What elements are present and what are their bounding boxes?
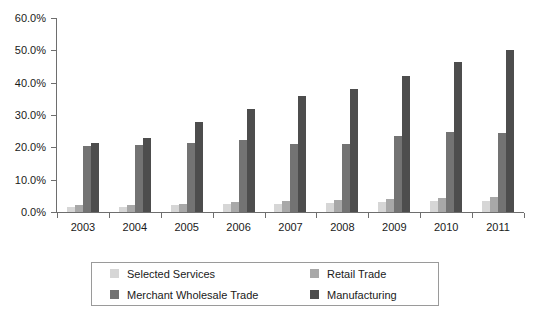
bar (506, 50, 514, 212)
bar (378, 202, 386, 212)
x-tick-label: 2008 (330, 221, 354, 234)
bar (274, 204, 282, 212)
bar (326, 203, 334, 212)
bar (67, 207, 75, 212)
bar (386, 199, 394, 212)
bar-group (265, 18, 317, 212)
x-tick-label: 2004 (123, 221, 147, 234)
y-tick-mark (51, 83, 56, 84)
x-tick-mark (109, 213, 110, 218)
bar-group (109, 18, 161, 212)
legend-item: Manufacturing (292, 289, 440, 301)
y-tick-label: 10.0% (15, 174, 46, 185)
bars-container (57, 18, 524, 212)
bar-chart: 0.0%10.0%20.0%30.0%40.0%50.0%60.0% 20032… (0, 0, 533, 314)
x-tick-mark (316, 213, 317, 218)
x-tick-label: 2009 (382, 221, 406, 234)
x-axis-labels: 200320042005200620072008200920102011 (57, 221, 524, 241)
bar (350, 89, 358, 212)
bar (402, 76, 410, 212)
legend-item: Selected Services (92, 268, 292, 280)
legend-swatch-icon (310, 290, 319, 299)
y-tick-mark (51, 180, 56, 181)
bar (239, 140, 247, 212)
legend-label: Manufacturing (327, 289, 397, 301)
bar (171, 205, 179, 212)
x-tick-mark (213, 213, 214, 218)
bar (342, 144, 350, 212)
y-tick-label: 40.0% (15, 77, 46, 88)
bar (247, 109, 255, 212)
bar-group (213, 18, 265, 212)
bar (490, 197, 498, 212)
x-tick-label: 2007 (278, 221, 302, 234)
bar (143, 138, 151, 212)
y-tick-mark (51, 212, 56, 213)
x-tick-label: 2003 (71, 221, 95, 234)
bar (282, 201, 290, 212)
y-tick-label: 20.0% (15, 142, 46, 153)
bar (290, 144, 298, 212)
x-tick-mark (472, 213, 473, 218)
x-tick-label: 2010 (434, 221, 458, 234)
bar-group (420, 18, 472, 212)
legend-swatch-icon (310, 269, 319, 278)
y-tick-label: 0.0% (21, 207, 46, 218)
bar (195, 122, 203, 212)
y-tick-mark (51, 18, 56, 19)
bar (498, 133, 506, 212)
bar (119, 207, 127, 212)
bar (394, 136, 402, 212)
y-tick-label: 30.0% (15, 110, 46, 121)
bar (179, 204, 187, 212)
plot-area: 0.0%10.0%20.0%30.0%40.0%50.0%60.0% 20032… (0, 0, 533, 250)
y-tick-label: 50.0% (15, 45, 46, 56)
bar (482, 201, 490, 212)
legend-swatch-icon (110, 290, 119, 299)
bar (231, 202, 239, 212)
legend-label: Selected Services (127, 268, 215, 280)
legend-label: Merchant Wholesale Trade (127, 289, 258, 301)
legend-grid: Selected ServicesRetail TradeMerchant Wh… (92, 263, 438, 305)
x-tick-mark (420, 213, 421, 218)
legend-item: Retail Trade (292, 268, 440, 280)
x-tick-label: 2011 (486, 221, 510, 234)
bar-group (316, 18, 368, 212)
bar (334, 200, 342, 212)
legend-item: Merchant Wholesale Trade (92, 289, 292, 301)
legend-swatch-icon (110, 269, 119, 278)
y-tick-mark (51, 50, 56, 51)
y-tick-mark (51, 147, 56, 148)
y-tick-mark (51, 115, 56, 116)
y-tick-label: 60.0% (15, 13, 46, 24)
x-tick-label: 2005 (174, 221, 198, 234)
bar (91, 143, 99, 212)
legend-label: Retail Trade (327, 268, 386, 280)
x-tick-mark (368, 213, 369, 218)
x-tick-mark (265, 213, 266, 218)
x-tick-mark (161, 213, 162, 218)
y-axis: 0.0%10.0%20.0%30.0%40.0%50.0%60.0% (0, 0, 52, 250)
bar (438, 198, 446, 212)
bar (75, 205, 83, 212)
bar (127, 205, 135, 212)
x-axis-line (56, 212, 524, 213)
bar (446, 132, 454, 212)
bar-group (57, 18, 109, 212)
bar (83, 146, 91, 212)
bar-group (161, 18, 213, 212)
x-tick-mark (524, 213, 525, 218)
bar (298, 96, 306, 212)
bar (187, 143, 195, 212)
bar (223, 204, 231, 212)
x-tick-mark (57, 213, 58, 218)
bar-group (368, 18, 420, 212)
bar-group (472, 18, 524, 212)
bar (454, 62, 462, 212)
x-tick-label: 2006 (226, 221, 250, 234)
bar (430, 201, 438, 212)
chart-legend: Selected ServicesRetail TradeMerchant Wh… (91, 262, 439, 306)
bar (135, 145, 143, 212)
